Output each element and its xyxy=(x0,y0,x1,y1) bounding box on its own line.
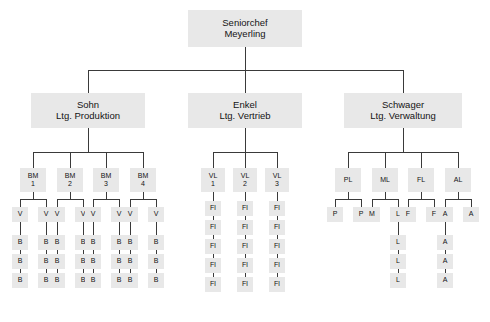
node-b-label: B xyxy=(44,257,49,265)
node-division-verwaltung[interactable]: Schwager Ltg. Verwaltung xyxy=(344,93,462,128)
node-pl[interactable]: PL xyxy=(335,168,361,192)
node-a[interactable]: A xyxy=(437,273,453,288)
node-fl-rep-label: Fl xyxy=(210,280,216,288)
node-b[interactable]: B xyxy=(49,273,65,288)
node-bm-2-line1: BM xyxy=(65,172,76,180)
node-b-label: B xyxy=(91,238,96,246)
node-b[interactable]: B xyxy=(85,235,101,250)
node-b-label: B xyxy=(128,238,133,246)
node-fl-rep[interactable]: Fl xyxy=(269,220,285,235)
node-l-label: L xyxy=(396,238,400,246)
node-v[interactable]: V xyxy=(122,207,138,222)
node-b-label: B xyxy=(55,276,60,284)
node-vl-2[interactable]: VL 2 xyxy=(233,168,257,192)
node-fl-rep-label: Fl xyxy=(274,261,280,269)
node-ml[interactable]: ML xyxy=(372,168,398,192)
node-m[interactable]: M xyxy=(364,207,380,222)
node-b-label: B xyxy=(154,238,159,246)
node-b-label: B xyxy=(91,276,96,284)
node-b-label: B xyxy=(44,238,49,246)
node-fl-rep-label: Fl xyxy=(210,261,216,269)
node-v-label: V xyxy=(18,210,23,218)
node-b[interactable]: B xyxy=(49,235,65,250)
node-a[interactable]: A xyxy=(437,235,453,250)
node-b[interactable]: B xyxy=(122,254,138,269)
node-b-label: B xyxy=(44,276,49,284)
node-v[interactable]: V xyxy=(148,207,164,222)
node-a[interactable]: A xyxy=(437,254,453,269)
node-fl-rep[interactable]: Fl xyxy=(269,201,285,216)
node-bm-1[interactable]: BM 1 xyxy=(20,168,46,192)
node-p-label: P xyxy=(359,210,364,218)
node-fl-rep-label: Fl xyxy=(210,242,216,250)
node-fl-rep[interactable]: Fl xyxy=(269,239,285,254)
node-fl-rep[interactable]: Fl xyxy=(205,220,221,235)
node-b[interactable]: B xyxy=(148,273,164,288)
node-division-produktion[interactable]: Sohn Ltg. Produktion xyxy=(31,93,145,128)
node-b[interactable]: B xyxy=(85,254,101,269)
node-vl-3[interactable]: VL 3 xyxy=(265,168,289,192)
node-l[interactable]: L xyxy=(390,273,406,288)
node-fl-rep[interactable]: Fl xyxy=(205,277,221,292)
node-b[interactable]: B xyxy=(148,235,164,250)
node-fl-rep-label: Fl xyxy=(242,280,248,288)
node-seniorchef[interactable]: Seniorchef Meyerling xyxy=(188,10,302,47)
node-b[interactable]: B xyxy=(122,273,138,288)
node-fl-rep[interactable]: Fl xyxy=(205,239,221,254)
node-b[interactable]: B xyxy=(12,235,28,250)
node-fl-rep-label: Fl xyxy=(242,223,248,231)
node-b[interactable]: B xyxy=(122,235,138,250)
node-fl-rep[interactable]: Fl xyxy=(205,201,221,216)
node-bm-4[interactable]: BM 4 xyxy=(130,168,156,192)
node-f[interactable]: F xyxy=(400,207,416,222)
node-v[interactable]: V xyxy=(12,207,28,222)
node-l[interactable]: L xyxy=(390,235,406,250)
node-v-label: V xyxy=(55,210,60,218)
node-a[interactable]: A xyxy=(463,207,479,222)
node-p[interactable]: P xyxy=(327,207,343,222)
node-fl-rep[interactable]: Fl xyxy=(269,277,285,292)
node-fl-rep[interactable]: Fl xyxy=(205,258,221,273)
node-b[interactable]: B xyxy=(49,254,65,269)
node-v[interactable]: V xyxy=(49,207,65,222)
node-vl-3-line1: VL xyxy=(273,172,282,180)
node-b-label: B xyxy=(117,257,122,265)
node-vl-1[interactable]: VL 1 xyxy=(201,168,225,192)
node-fl-rep[interactable]: Fl xyxy=(237,258,253,273)
node-b-label: B xyxy=(18,276,23,284)
node-m-label: M xyxy=(369,210,375,218)
node-b-label: B xyxy=(55,238,60,246)
node-pl-line1: PL xyxy=(344,176,353,184)
node-bm-3[interactable]: BM 3 xyxy=(93,168,119,192)
node-vl-2-line2: 2 xyxy=(243,180,247,188)
node-a-label: A xyxy=(443,210,448,218)
node-fl-rep[interactable]: Fl xyxy=(237,239,253,254)
node-fl-rep[interactable]: Fl xyxy=(237,220,253,235)
node-fl-rep-label: Fl xyxy=(274,204,280,212)
node-v-label: V xyxy=(91,210,96,218)
node-division-verwaltung-line1: Schwager xyxy=(382,100,424,111)
node-fl-rep[interactable]: Fl xyxy=(237,277,253,292)
node-fl[interactable]: FL xyxy=(408,168,434,192)
node-b-label: B xyxy=(18,257,23,265)
node-al[interactable]: AL xyxy=(445,168,471,192)
node-a[interactable]: A xyxy=(437,207,453,222)
node-b[interactable]: B xyxy=(12,254,28,269)
node-b[interactable]: B xyxy=(148,254,164,269)
node-p-label: P xyxy=(333,210,338,218)
node-vl-1-line1: VL xyxy=(209,172,218,180)
node-a-label: A xyxy=(443,276,448,284)
node-fl-rep-label: Fl xyxy=(242,204,248,212)
node-b[interactable]: B xyxy=(85,273,101,288)
node-bm-2[interactable]: BM 2 xyxy=(57,168,83,192)
node-division-verwaltung-line2: Ltg. Verwaltung xyxy=(370,111,436,122)
node-l[interactable]: L xyxy=(390,254,406,269)
node-b[interactable]: B xyxy=(12,273,28,288)
node-seniorchef-line2: Meyerling xyxy=(224,29,265,40)
node-bm-3-line1: BM xyxy=(101,172,112,180)
node-fl-rep[interactable]: Fl xyxy=(237,201,253,216)
node-fl-rep[interactable]: Fl xyxy=(269,258,285,273)
node-division-vertrieb[interactable]: Enkel Ltg. Vertrieb xyxy=(188,93,302,128)
node-b-label: B xyxy=(117,238,122,246)
node-v[interactable]: V xyxy=(85,207,101,222)
